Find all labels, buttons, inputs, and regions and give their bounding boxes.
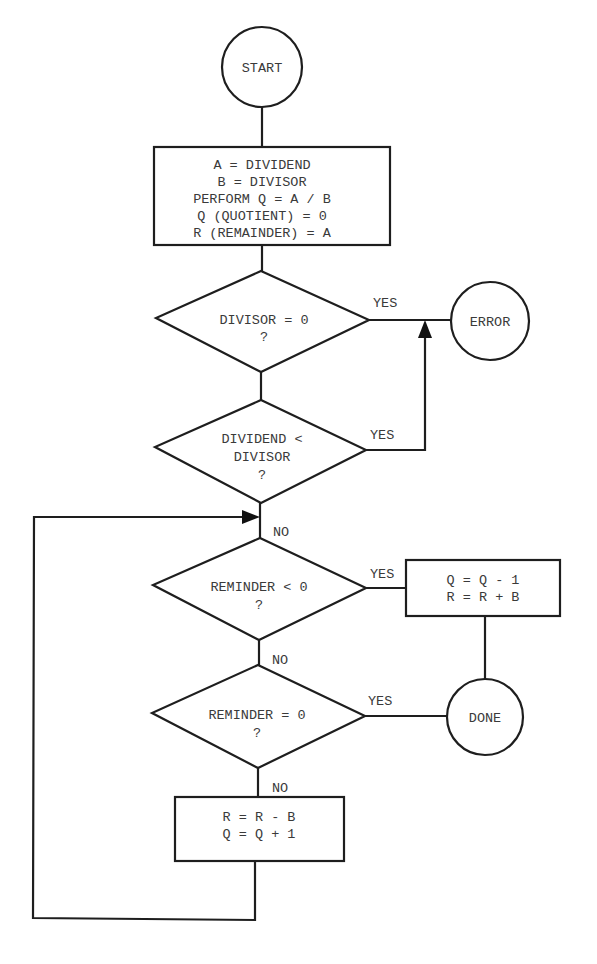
init-process-box: A = DIVIDEND B = DIVISOR PERFORM Q = A /…	[154, 147, 390, 245]
dividend-less-line-1: DIVIDEND <	[221, 432, 302, 447]
dividend-less-line-3: ?	[258, 468, 266, 483]
dividend-less-line-2: DIVISOR	[234, 450, 291, 465]
start-label: START	[242, 61, 283, 76]
arrowhead-up-icon	[418, 320, 432, 338]
dividend-less-no-label: NO	[273, 525, 289, 540]
remainder-zero-line-2: ?	[253, 726, 261, 741]
done-node: DONE	[447, 679, 523, 755]
remainder-zero-decision: REMINDER = 0 ? YES NO	[152, 665, 392, 796]
init-line-2: B = DIVISOR	[217, 175, 306, 190]
remainder-negative-line-1: REMINDER < 0	[210, 580, 307, 595]
remainder-zero-line-1: REMINDER = 0	[208, 708, 305, 723]
remainder-negative-line-2: ?	[255, 598, 263, 613]
init-line-4: Q (QUOTIENT) = 0	[197, 209, 327, 224]
divisor-zero-yes-label: YES	[373, 296, 397, 311]
init-line-1: A = DIVIDEND	[213, 158, 310, 173]
remainder-zero-yes-label: YES	[368, 694, 392, 709]
divisor-zero-line-1: DIVISOR = 0	[219, 313, 308, 328]
start-node: START	[222, 27, 302, 107]
done-label: DONE	[469, 711, 501, 726]
dividend-less-yes-label: YES	[370, 428, 394, 443]
subtract-line-2: Q = Q + 1	[223, 827, 296, 842]
init-line-3: PERFORM Q = A / B	[193, 192, 331, 207]
division-flowchart: START A = DIVIDEND B = DIVISOR PERFORM Q…	[0, 0, 597, 964]
subtract-process-box: R = R - B Q = Q + 1	[175, 797, 344, 861]
arrowhead-right-icon	[242, 510, 260, 524]
adjust-process-box: Q = Q - 1 R = R + B	[406, 560, 560, 616]
divisor-zero-line-2: ?	[260, 330, 268, 345]
remainder-negative-no-label: NO	[272, 653, 288, 668]
error-node: ERROR	[451, 282, 529, 360]
error-label: ERROR	[470, 315, 511, 330]
subtract-line-1: R = R - B	[223, 810, 296, 825]
remainder-negative-decision: REMINDER < 0 ? YES NO	[153, 538, 394, 668]
remainder-negative-yes-label: YES	[370, 567, 394, 582]
dividend-less-decision: DIVIDEND < DIVISOR ? YES NO	[155, 400, 394, 540]
remainder-zero-no-label: NO	[272, 781, 288, 796]
init-line-5: R (REMAINDER) = A	[193, 226, 332, 241]
adjust-line-1: Q = Q - 1	[447, 573, 520, 588]
divisor-zero-decision: DIVISOR = 0 ? YES	[156, 271, 397, 372]
adjust-line-2: R = R + B	[447, 590, 520, 605]
